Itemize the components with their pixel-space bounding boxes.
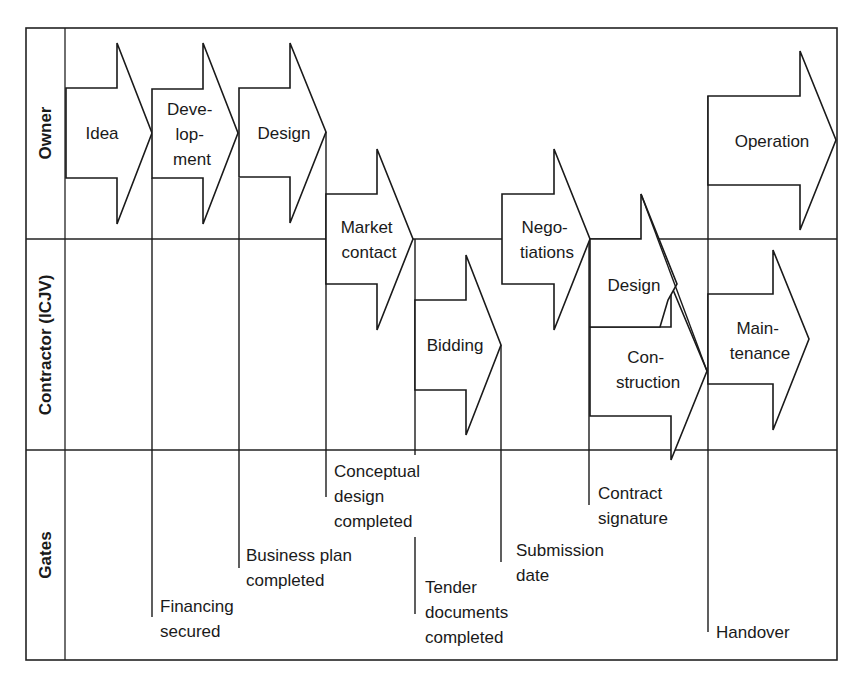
process-diagram: Owner Contractor (ICJV) Gates Idea Deve-… — [0, 0, 864, 687]
gate-handover: Handover — [716, 623, 790, 642]
phase-label-operation: Operation — [735, 132, 810, 151]
svg-text:Design: Design — [258, 124, 311, 143]
phase-label-market-contact-2: contact — [342, 243, 397, 262]
phase-arrow-design-contractor — [590, 194, 677, 327]
gate-business-plan-completed: Business plan completed — [246, 546, 357, 590]
phase-label-negotiations-1: Nego- — [521, 218, 567, 237]
svg-text:Operation: Operation — [735, 132, 810, 151]
phase-label-development-2: lop- — [175, 125, 203, 144]
gate-financing-secured: Financing secured — [160, 597, 238, 641]
phase-label-development-1: Deve- — [167, 100, 212, 119]
phase-label-negotiations-2: tiations — [520, 243, 574, 262]
phase-label-development-3: ment — [173, 150, 211, 169]
phase-label-construction-2: struction — [616, 373, 680, 392]
gate-conceptual-design-completed: Conceptual design completed — [334, 462, 425, 531]
svg-text:Idea: Idea — [85, 124, 119, 143]
lane-title-owner: Owner — [36, 106, 55, 159]
phase-label-idea: Idea — [85, 124, 119, 143]
phase-label-design-contractor: Design — [608, 276, 661, 295]
phase-arrow-negotiations — [502, 149, 590, 330]
phase-label-design-owner: Design — [258, 124, 311, 143]
svg-text:Bidding: Bidding — [427, 336, 484, 355]
svg-text:Design: Design — [608, 276, 661, 295]
phase-label-bidding: Bidding — [427, 336, 484, 355]
lane-title-gates: Gates — [36, 531, 55, 578]
phase-label-construction-1: Con- — [627, 348, 664, 367]
phase-arrow-maintenance — [708, 250, 809, 430]
phase-label-market-contact-1: Market — [341, 218, 393, 237]
phase-label-maintenance-2: tenance — [730, 344, 791, 363]
lane-title-contractor: Contractor (ICJV) — [36, 275, 55, 416]
gate-tender-documents-completed: Tender documents completed — [425, 578, 513, 647]
phase-arrow-market-contact — [326, 149, 413, 330]
gate-submission-date: Submission date — [516, 541, 609, 585]
gate-contract-signature: Contract signature — [598, 484, 668, 528]
phase-label-maintenance-1: Main- — [736, 319, 779, 338]
